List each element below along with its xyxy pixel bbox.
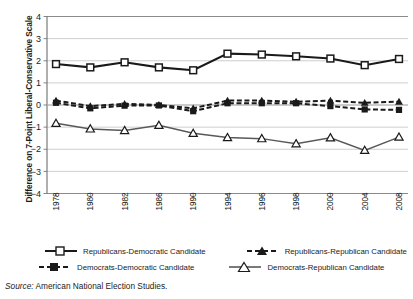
data-point-open-square: [293, 53, 300, 60]
legend-label: Republicans-Democratic Candidate: [83, 246, 206, 257]
x-tick-label: 1994: [224, 192, 233, 211]
y-tick-label: 3: [36, 34, 41, 44]
legend-item-republicans-democratic-candidate[interactable]: Republicans-Democratic Candidate: [44, 245, 206, 257]
legend-label: Republicans-Republican Candidate: [285, 246, 407, 257]
y-tick-label: −3: [31, 167, 41, 177]
legend-row-1: Republicans-Democratic Candidate Republi…: [0, 243, 413, 259]
x-tick-label: 1986: [155, 192, 164, 211]
y-tick-label: 1: [36, 78, 41, 88]
series-3: [52, 119, 403, 153]
x-axis-tick-labels: 1978198019821986199019941996199820002004…: [52, 192, 404, 211]
data-point-open-square: [396, 56, 403, 63]
source-text: American National Election Studies.: [35, 281, 167, 291]
data-point-open-square: [361, 62, 368, 69]
series-0: [53, 50, 403, 73]
data-point-filled-square: [396, 107, 402, 113]
y-axis-tick-labels: 43210−1−2−3−4: [31, 12, 47, 199]
data-point-filled-square: [259, 100, 265, 106]
source-note: Source: American National Election Studi…: [5, 281, 167, 291]
x-tick-label: 1980: [86, 192, 95, 211]
data-point-open-triangle: [155, 121, 163, 128]
legend-label: Democrats-Republican Candidate: [267, 262, 384, 273]
data-point-open-triangle: [326, 134, 334, 141]
legend-label: Democrats-Democratic Candidate: [77, 262, 194, 273]
data-point-filled-square: [156, 102, 162, 108]
figure: Difference on 7-Point Liberal-Conservati…: [0, 0, 413, 299]
open-triangle-solid-line-icon: [228, 261, 262, 273]
x-tick-label: 2000: [326, 192, 335, 211]
plot-area: 43210−1−2−3−4 19781980198219861990199419…: [0, 0, 413, 240]
data-point-filled-square: [87, 105, 93, 111]
data-point-filled-square: [122, 103, 128, 109]
data-point-open-square: [224, 50, 231, 57]
data-point-open-square: [87, 64, 94, 71]
data-point-open-square: [156, 64, 163, 71]
data-point-filled-square: [362, 106, 368, 112]
x-tick-label: 1982: [121, 192, 130, 211]
data-point-open-triangle: [395, 133, 403, 140]
data-point-open-square: [327, 55, 334, 62]
data-point-filled-square: [224, 100, 230, 106]
legend-item-democrats-republican-candidate[interactable]: Democrats-Republican Candidate: [228, 261, 384, 273]
data-point-open-square: [121, 59, 128, 66]
y-tick-label: −4: [31, 189, 41, 199]
legend: Republicans-Democratic Candidate Republi…: [0, 243, 413, 275]
x-tick-label: 1990: [189, 192, 198, 211]
open-square-solid-line-icon: [44, 245, 78, 257]
legend-item-democrats-democratic-candidate[interactable]: Democrats-Democratic Candidate: [38, 261, 194, 273]
data-point-filled-square: [190, 108, 196, 114]
x-tick-label: 2008: [395, 192, 404, 211]
line-chart: 43210−1−2−3−4 19781980198219861990199419…: [0, 0, 413, 240]
legend-row-2: Democrats-Democratic Candidate Democrats…: [0, 259, 413, 275]
data-point-open-triangle: [52, 119, 60, 126]
data-point-filled-triangle: [327, 97, 335, 104]
y-tick-label: 2: [36, 56, 41, 66]
data-point-filled-square: [53, 100, 59, 106]
data-point-open-square: [190, 67, 197, 74]
legend-item-republicans-republican-candidate[interactable]: Republicans-Republican Candidate: [246, 245, 407, 257]
x-tick-label: 1998: [292, 192, 301, 211]
y-tick-label: −2: [31, 144, 41, 154]
source-prefix: Source:: [5, 281, 34, 291]
filled-square-dashed-line-icon: [38, 261, 72, 273]
data-point-filled-square: [327, 103, 333, 109]
series-2: [53, 100, 402, 115]
data-point-filled-square: [293, 100, 299, 106]
data-point-open-square: [258, 51, 265, 58]
y-tick-label: −1: [31, 122, 41, 132]
y-tick-label: 4: [36, 12, 41, 22]
data-series-group: [52, 50, 403, 153]
filled-triangle-dashed-line-icon: [246, 245, 280, 257]
y-tick-label: 0: [36, 100, 41, 110]
x-tick-label: 1978: [52, 192, 61, 211]
data-point-open-square: [53, 61, 60, 68]
x-tick-label: 2004: [361, 192, 370, 211]
x-tick-label: 1996: [258, 192, 267, 211]
data-point-filled-triangle: [395, 98, 403, 105]
